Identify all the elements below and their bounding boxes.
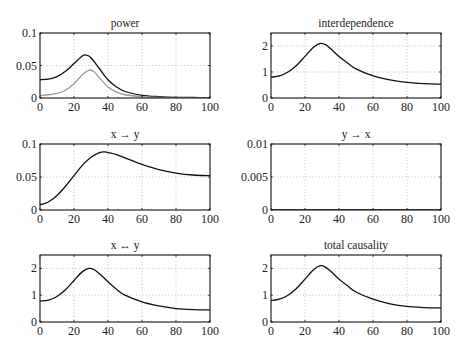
x-tick-label: 100 — [432, 212, 450, 226]
y-tick-label: 0 — [262, 91, 268, 105]
subplot-title: total causality — [324, 239, 388, 252]
grid — [40, 255, 210, 322]
x-tick-label: 20 — [299, 324, 311, 338]
x-tick-label: 0 — [268, 212, 274, 226]
figure: 02040608010000.050.1power020406080100012… — [0, 0, 467, 351]
y-tick-label: 0.05 — [16, 170, 37, 184]
x-tick-label: 40 — [102, 324, 114, 338]
subplot-y-x: 02040608010000.0050.01y → x — [241, 128, 450, 226]
y-tick-label: 2 — [262, 261, 268, 275]
x-tick-label: 20 — [68, 212, 80, 226]
x-tick-label: 60 — [136, 100, 148, 114]
series-line-x-bidirectional-y — [40, 268, 210, 310]
x-tick-label: 80 — [401, 212, 413, 226]
x-tick-label: 0 — [37, 324, 43, 338]
subplot-power: 02040608010000.050.1power — [16, 17, 219, 114]
x-tick-label: 20 — [68, 324, 80, 338]
subplot-title: x → y — [111, 128, 140, 141]
subplot-x-y: 020406080100012x ↔ y — [31, 239, 219, 338]
subplot-title: interdependence — [318, 17, 393, 30]
subplot-title: power — [111, 17, 140, 30]
x-tick-label: 0 — [268, 324, 274, 338]
y-tick-label: 2 — [262, 39, 268, 53]
grid — [40, 33, 210, 98]
x-tick-label: 80 — [401, 100, 413, 114]
x-tick-label: 40 — [333, 100, 345, 114]
x-tick-label: 80 — [401, 324, 413, 338]
y-tick-label: 0.005 — [241, 170, 268, 184]
y-tick-label: 1 — [262, 288, 268, 302]
x-tick-label: 100 — [201, 100, 219, 114]
y-tick-label: 0 — [262, 315, 268, 329]
x-tick-label: 20 — [68, 100, 80, 114]
y-tick-label: 1 — [31, 288, 37, 302]
subplot-interdependence: 020406080100012interdependence — [262, 17, 450, 114]
x-tick-label: 0 — [37, 212, 43, 226]
axes-box — [40, 255, 210, 322]
x-tick-label: 60 — [367, 212, 379, 226]
grid — [40, 144, 210, 210]
y-tick-label: 0 — [31, 315, 37, 329]
x-tick-label: 40 — [102, 100, 114, 114]
x-tick-label: 80 — [170, 324, 182, 338]
x-tick-label: 20 — [299, 212, 311, 226]
x-tick-label: 20 — [299, 100, 311, 114]
y-tick-label: 1 — [262, 65, 268, 79]
subplot-total-causality: 020406080100012total causality — [262, 239, 450, 338]
x-tick-label: 60 — [136, 324, 148, 338]
x-tick-label: 60 — [136, 212, 148, 226]
grid — [271, 144, 441, 210]
x-tick-label: 60 — [367, 100, 379, 114]
x-tick-label: 60 — [367, 324, 379, 338]
x-tick-label: 0 — [268, 100, 274, 114]
y-tick-label: 2 — [31, 261, 37, 275]
series-line-total-causality — [271, 266, 441, 308]
x-tick-label: 100 — [432, 324, 450, 338]
subplot-x-y: 02040608010000.050.1x → y — [16, 128, 219, 226]
series-line-power-1 — [40, 55, 210, 98]
x-tick-label: 100 — [201, 324, 219, 338]
subplot-title: y → x — [342, 128, 371, 141]
x-tick-label: 40 — [333, 212, 345, 226]
y-tick-label: 0 — [262, 203, 268, 217]
series-line-interdependence — [271, 43, 441, 84]
x-tick-label: 80 — [170, 100, 182, 114]
x-tick-label: 100 — [201, 212, 219, 226]
y-tick-label: 0 — [31, 91, 37, 105]
x-tick-label: 100 — [432, 100, 450, 114]
x-tick-label: 80 — [170, 212, 182, 226]
y-tick-label: 0.01 — [247, 137, 268, 151]
series-line-power-2 — [40, 70, 210, 98]
subplot-title: x ↔ y — [111, 239, 140, 252]
y-tick-label: 0.1 — [22, 26, 37, 40]
y-tick-label: 0.1 — [22, 137, 37, 151]
series-line-x-to-y — [40, 152, 210, 205]
x-tick-label: 40 — [102, 212, 114, 226]
y-tick-label: 0 — [31, 203, 37, 217]
y-tick-label: 0.05 — [16, 59, 37, 73]
x-tick-label: 0 — [37, 100, 43, 114]
x-tick-label: 40 — [333, 324, 345, 338]
